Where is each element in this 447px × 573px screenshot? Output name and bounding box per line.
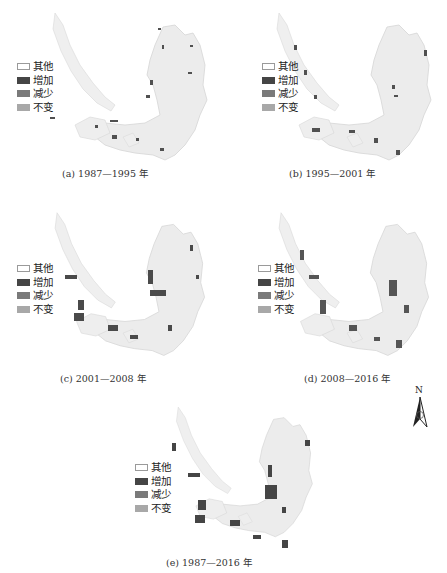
legend-e: 其他 增加 减少 不变 [135,461,171,515]
legend-c: 其他 增加 减少 不变 [17,262,53,316]
map-panel-c: 其他 增加 减少 不变 (c) 2001—2008 年 [0,195,224,395]
map-panel-a: 其他 增加 减少 不变 (a) 1987—1995 年 [0,0,224,195]
legend-item-unchanged: 不变 [135,502,171,516]
swatch-unchanged [262,104,275,111]
legend-label: 增加 [33,74,53,88]
north-label: N [415,385,423,395]
map-panel-d: 其他 增加 减少 不变 (d) 2008—2016 年 [224,195,447,395]
legend-label: 减少 [33,289,53,303]
swatch-unchanged [17,104,30,111]
caption-a: (a) 1987—1995 年 [62,166,149,180]
legend-item-increase: 增加 [17,74,53,88]
legend-item-decrease: 减少 [135,488,171,502]
legend-item-unchanged: 不变 [17,101,53,115]
swatch-unchanged [258,306,271,313]
legend-item-decrease: 减少 [17,289,53,303]
swatch-decrease [17,292,30,299]
swatch-other [135,464,148,471]
legend-label: 不变 [33,303,53,317]
legend-label: 减少 [274,289,294,303]
legend-item-other: 其他 [17,60,53,74]
north-arrow-icon [410,395,430,430]
legend-item-increase: 增加 [262,74,298,88]
legend-label: 不变 [278,101,298,115]
legend-item-other: 其他 [262,60,298,74]
legend-label: 增加 [151,475,171,489]
swatch-other [258,265,271,272]
legend-b: 其他 增加 减少 不变 [262,60,298,114]
legend-item-unchanged: 不变 [17,303,53,317]
legend-label: 不变 [33,101,53,115]
caption-e: (e) 1987—2016 年 [166,555,253,569]
legend-label: 减少 [151,488,171,502]
map-b [224,0,447,180]
swatch-decrease [262,90,275,97]
legend-item-other: 其他 [17,262,53,276]
swatch-increase [17,279,30,286]
legend-item-decrease: 减少 [17,87,53,101]
map-panel-e: 其他 增加 减少 不变 (e) 1987—2016 年 [110,395,340,573]
legend-label: 减少 [33,87,53,101]
legend-label: 其他 [33,60,53,74]
legend-item-unchanged: 不变 [262,101,298,115]
swatch-increase [17,77,30,84]
legend-item-increase: 增加 [258,276,294,290]
north-arrow: N [410,385,430,430]
caption-d: (d) 2008—2016 年 [304,371,391,385]
swatch-other [262,63,275,70]
swatch-increase [135,478,148,485]
legend-label: 增加 [278,74,298,88]
legend-d: 其他 增加 减少 不变 [258,262,294,316]
legend-item-other: 其他 [258,262,294,276]
legend-item-unchanged: 不变 [258,303,294,317]
legend-label: 不变 [151,502,171,516]
caption-c: (c) 2001—2008 年 [60,371,147,385]
swatch-other [17,265,30,272]
legend-label: 其他 [151,461,171,475]
legend-item-increase: 增加 [135,475,171,489]
legend-label: 增加 [33,276,53,290]
legend-item-decrease: 减少 [262,87,298,101]
legend-item-decrease: 减少 [258,289,294,303]
swatch-decrease [17,90,30,97]
swatch-increase [258,279,271,286]
legend-item-increase: 增加 [17,276,53,290]
swatch-decrease [135,491,148,498]
swatch-increase [262,77,275,84]
legend-label: 其他 [33,262,53,276]
map-panel-b: 其他 增加 减少 不变 (b) 1995—2001 年 [224,0,447,195]
swatch-unchanged [17,306,30,313]
legend-label: 其他 [274,262,294,276]
swatch-unchanged [135,505,148,512]
legend-a: 其他 增加 减少 不变 [17,60,53,114]
swatch-other [17,63,30,70]
legend-label: 减少 [278,87,298,101]
legend-label: 其他 [278,60,298,74]
legend-item-other: 其他 [135,461,171,475]
legend-label: 不变 [274,303,294,317]
legend-label: 增加 [274,276,294,290]
swatch-decrease [258,292,271,299]
caption-b: (b) 1995—2001 年 [289,166,376,180]
